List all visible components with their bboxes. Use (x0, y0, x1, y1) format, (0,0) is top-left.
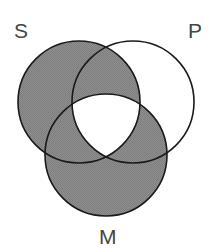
circle-label-m: M (99, 226, 117, 247)
circle-label-p: P (188, 20, 203, 41)
venn-diagram-canvas (0, 0, 219, 249)
venn-diagram-figure: S P M (0, 0, 219, 249)
circle-label-s: S (14, 20, 29, 41)
